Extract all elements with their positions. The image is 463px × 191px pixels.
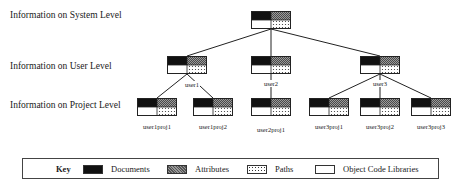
legend-key: Key Documents Attributes Paths Object Co… bbox=[22, 158, 439, 179]
paths-swatch-icon bbox=[247, 165, 267, 174]
node-label-user2proj1: user2proj1 bbox=[257, 126, 285, 133]
legend-item-object-code-libraries: Object Code Libraries bbox=[315, 164, 419, 174]
user-node-user3 bbox=[360, 56, 400, 74]
legend-label-paths: Paths bbox=[275, 164, 293, 174]
attributes-swatch-icon bbox=[167, 165, 187, 174]
project-node-user2proj1 bbox=[251, 98, 291, 116]
node-label-user3proj2: user3proj2 bbox=[366, 123, 394, 130]
legend-label-attributes: Attributes bbox=[195, 164, 229, 174]
node-label-user1: user1 bbox=[184, 81, 200, 88]
legend-item-documents: Documents bbox=[83, 164, 150, 174]
project-node-user1proj2 bbox=[193, 98, 233, 116]
node-label-user1proj1: user1proj1 bbox=[143, 123, 171, 130]
node-label-user1proj2: user1proj2 bbox=[199, 123, 227, 130]
project-node-user1proj1 bbox=[137, 98, 177, 116]
legend-label-documents: Documents bbox=[111, 164, 150, 174]
system-node bbox=[251, 11, 291, 29]
user-node-user2 bbox=[251, 56, 291, 74]
node-label-user2: user2 bbox=[263, 80, 279, 87]
project-node-user3proj2 bbox=[360, 98, 400, 116]
node-label-user3: user3 bbox=[372, 80, 388, 87]
legend-title: Key bbox=[56, 164, 71, 174]
user-node-user1 bbox=[167, 56, 207, 74]
legend-label-object-code-libraries: Object Code Libraries bbox=[343, 164, 419, 174]
project-node-user3proj3 bbox=[411, 98, 451, 116]
object-code-libraries-swatch-icon bbox=[315, 165, 335, 174]
legend-item-paths: Paths bbox=[247, 164, 293, 174]
node-label-user3proj1: user3proj1 bbox=[315, 123, 343, 130]
legend-item-attributes: Attributes bbox=[167, 164, 229, 174]
documents-swatch-icon bbox=[83, 165, 103, 174]
project-node-user3proj1 bbox=[309, 98, 349, 116]
node-label-user3proj3: user3proj3 bbox=[417, 123, 445, 130]
